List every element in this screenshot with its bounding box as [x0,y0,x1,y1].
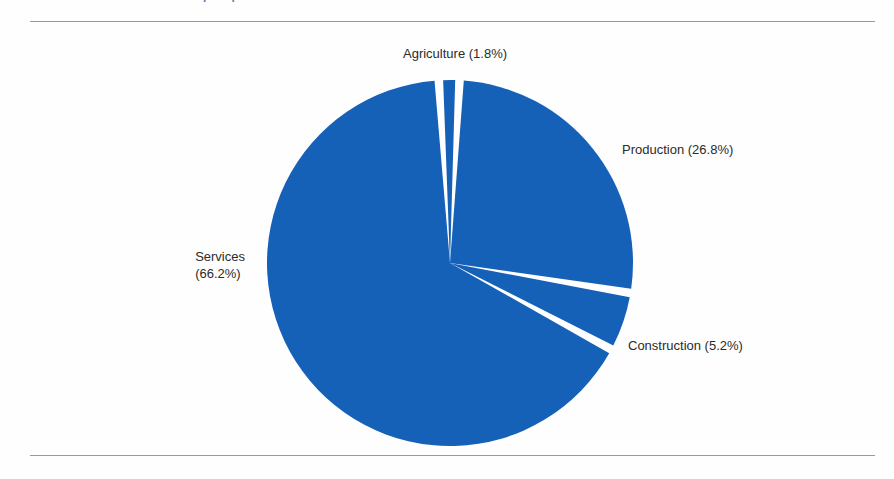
slice-label-services-value: (66.2%) [195,265,245,282]
slice-label-construction: Construction (5.2%) [628,337,743,354]
slice-label-services-name: Services [195,248,245,265]
pie-chart-svg [0,0,894,479]
slice-label-agriculture: Agriculture (1.8%) [403,45,507,62]
slice-label-services: Services (66.2%) [195,248,245,282]
slice-label-production: Production (26.8%) [622,141,733,158]
pie-chart [0,0,894,479]
pie-slice-production [450,81,633,289]
figure-canvas: Grafico 1. Distribucion del empleo por s… [0,0,894,479]
